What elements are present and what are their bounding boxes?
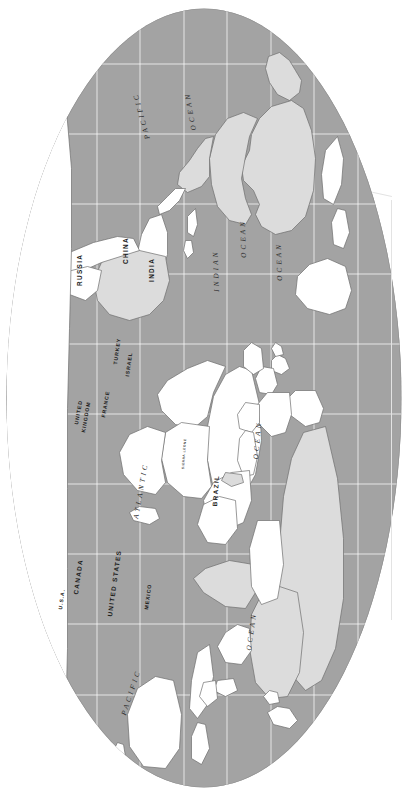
land-new-zealand	[133, 774, 153, 787]
landmasses	[6, 8, 401, 787]
land-madagascar	[129, 506, 159, 524]
land-antarctica	[6, 8, 71, 787]
land-greenland	[295, 258, 351, 314]
land-se-asia	[217, 624, 251, 664]
land-japan	[267, 706, 297, 728]
land-arabia	[197, 496, 237, 544]
page-edge-line	[391, 200, 392, 620]
land-alaska	[265, 52, 301, 100]
map-canvas	[0, 0, 407, 795]
land-central-america	[157, 188, 185, 214]
land-caribbean	[187, 208, 197, 236]
land-arctic-islands	[321, 136, 343, 204]
land-central-asia	[249, 520, 283, 604]
land-tasmania	[113, 742, 125, 760]
land-new-guinea	[191, 722, 209, 764]
land-china	[249, 586, 303, 698]
land-africa-south	[119, 426, 165, 494]
land-africa-central	[161, 422, 211, 498]
land-arctic-islands-2	[331, 208, 349, 248]
land-mexico	[177, 136, 213, 192]
land-india	[193, 560, 255, 608]
world-map-page: PACIFIC OCEAN OCEAN INDIAN OCEAN ATLANTI…	[0, 0, 407, 795]
land-central-europe	[257, 392, 291, 436]
land-australia	[127, 676, 181, 768]
land-caribbean-2	[183, 240, 193, 258]
land-ireland	[271, 342, 283, 356]
land-indonesia	[189, 644, 213, 718]
